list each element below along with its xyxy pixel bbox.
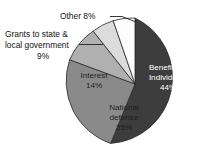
slice-label-grants-line2: local government: [5, 40, 69, 50]
federal-spending-pie-chart: Benefits to Individuals 44% National def…: [0, 0, 213, 153]
slice-label-defense-line1: National: [109, 103, 139, 112]
slice-label-defense-value: 25%: [116, 123, 132, 132]
slice-label-benefits-line1: Benefits to: [149, 63, 188, 72]
slice-label-benefits-value: 44%: [160, 83, 176, 92]
slice-label-grants: Grants to state & local government 9%: [5, 29, 69, 61]
slice-label-interest-line1: Interest: [81, 71, 109, 80]
slice-label-benefits-line2: Individuals: [149, 73, 187, 82]
slice-label-defense-line2: defense: [110, 113, 139, 122]
slice-label-interest-value: 14%: [86, 81, 102, 90]
slice-label-other-text: Other 8%: [60, 11, 96, 21]
slice-label-grants-value: 9%: [37, 51, 50, 61]
pie-chart-figure: Benefits to Individuals 44% National def…: [0, 0, 213, 153]
slice-label-grants-line1: Grants to state &: [5, 29, 68, 39]
slice-label-other: Other 8%: [60, 11, 96, 21]
